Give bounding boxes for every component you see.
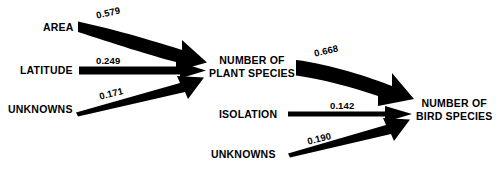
node-label-unknowns-1: UNKNOWNS: [7, 103, 74, 115]
node-label-bird-species-line1: NUMBER OF: [416, 97, 493, 110]
node-label-bird-species: NUMBER OF BIRD SPECIES: [415, 97, 494, 122]
node-label-area: AREA: [42, 21, 75, 33]
coefficient-label-latitude-to-plant-species: 0.249: [96, 55, 120, 66]
path-arrows-layer: [0, 0, 501, 171]
node-label-plant-species-line2: PLANT SPECIES: [209, 67, 295, 80]
node-label-latitude: LATITUDE: [19, 64, 74, 76]
node-label-unknowns-2: UNKNOWNS: [210, 148, 277, 160]
path-diagram: AREA LATITUDE UNKNOWNS NUMBER OF PLANT S…: [0, 0, 501, 171]
coefficient-label-isolation-to-bird-species: 0.142: [330, 100, 354, 111]
node-label-isolation: ISOLATION: [218, 108, 278, 120]
node-label-plant-species-line1: NUMBER OF: [209, 54, 295, 67]
arrow-unknowns1-to-plant-species: [76, 76, 204, 117]
node-label-bird-species-line2: BIRD SPECIES: [416, 110, 493, 123]
node-label-plant-species: NUMBER OF PLANT SPECIES: [208, 54, 296, 79]
